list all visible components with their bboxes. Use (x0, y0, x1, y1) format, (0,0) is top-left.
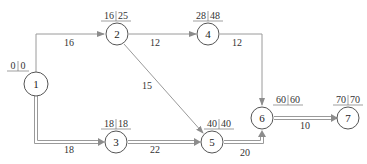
node-6-label: 6 (259, 112, 265, 124)
node-6-ls: 60 (290, 94, 300, 105)
node-2-es: 16 (104, 10, 114, 21)
node-4: 4 28 48 (193, 10, 223, 45)
node-5: 5 40 40 (201, 118, 234, 153)
network-diagram: 16 18 12 15 22 12 20 1 (0, 0, 367, 164)
edge-3-5-duration: 22 (150, 144, 160, 155)
edge-5-6-duration: 20 (240, 147, 250, 158)
node-3-ls: 18 (118, 118, 128, 129)
node-4-label: 4 (205, 28, 211, 40)
edge-2-5-duration: 15 (142, 80, 152, 91)
node-3: 3 18 18 (101, 118, 131, 153)
node-7-es: 70 (336, 94, 346, 105)
node-5-ls: 40 (221, 118, 231, 129)
node-5-label: 5 (209, 136, 215, 148)
edge-2-4: 12 (129, 34, 196, 48)
edge-1-3-duration: 18 (64, 144, 74, 155)
edge-6-7: 10 (274, 114, 338, 131)
edge-4-6-duration: 12 (232, 37, 242, 48)
node-4-ls: 48 (210, 10, 220, 21)
node-2-ls: 25 (118, 10, 128, 21)
edge-3-5: 22 (128, 138, 201, 155)
edge-2-5: 15 (124, 44, 203, 133)
edge-5-6: 20 (224, 130, 266, 158)
node-7-label: 7 (345, 112, 351, 124)
node-1-es: 0 (11, 60, 16, 71)
edge-2-4-duration: 12 (150, 37, 160, 48)
edge-1-3: 18 (35, 96, 106, 155)
node-6: 6 60 60 (251, 94, 303, 129)
node-7-ls: 70 (350, 94, 360, 105)
edge-1-2: 16 (36, 34, 104, 72)
node-6-es: 60 (276, 94, 286, 105)
node-2-label: 2 (114, 28, 120, 40)
node-1: 1 0 0 (7, 60, 48, 96)
node-1-label: 1 (33, 78, 39, 90)
node-3-label: 3 (113, 136, 119, 148)
node-2: 2 16 25 (101, 10, 131, 45)
node-4-es: 28 (196, 10, 206, 21)
node-7: 7 70 70 (333, 94, 363, 129)
edge-1-2-duration: 16 (64, 37, 74, 48)
node-3-es: 18 (104, 118, 114, 129)
edge-4-6: 12 (220, 34, 262, 105)
node-1-ls: 0 (21, 60, 26, 71)
edge-6-7-duration: 10 (300, 120, 310, 131)
node-5-es: 40 (207, 118, 217, 129)
